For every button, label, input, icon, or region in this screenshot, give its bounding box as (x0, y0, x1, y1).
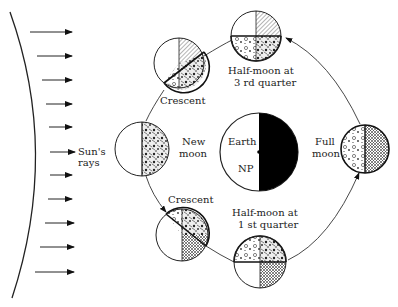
label-crescent-bottom: Crescent (168, 194, 213, 205)
label-new-moon-line2: moon (179, 148, 208, 159)
moon-new (115, 122, 169, 176)
label-full-moon-line2: moon (312, 148, 341, 159)
earth-label: Earth (228, 136, 257, 147)
sun-label-line1: Sun's (78, 146, 106, 157)
north-pole-label: NP (238, 163, 254, 174)
label-3rd-quarter-line1: Half-moon at (228, 65, 294, 76)
sun-edge-arc (10, 12, 36, 298)
sun-rays (30, 32, 75, 272)
sun-label-line2: rays (78, 157, 100, 168)
moon-half-3rd-quarter (231, 11, 281, 61)
label-full-moon-line1: Full (315, 136, 335, 147)
moon-full (341, 125, 389, 173)
earth (220, 113, 298, 191)
moon-crescent-bottom (156, 207, 209, 261)
label-3rd-quarter-line2: 3 rd quarter (234, 77, 296, 88)
label-1st-quarter-line1: Half-moon at (232, 207, 298, 218)
label-crescent-top: Crescent (160, 95, 205, 106)
label-new-moon-line1: New (182, 136, 206, 147)
label-1st-quarter-line2: 1 st quarter (238, 219, 298, 230)
moon-crescent-top (154, 38, 209, 93)
moon-phase-diagram: Sun's rays Earth NP Half-moon at 3 rd qu… (0, 0, 398, 307)
moon-half-1st-quarter (234, 236, 286, 288)
